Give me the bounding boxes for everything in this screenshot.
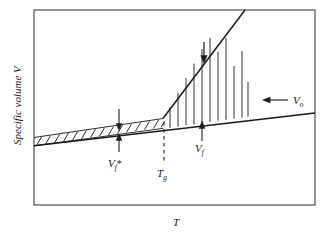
y-axis-label: Specific volume V (11, 65, 23, 145)
plot-frame (34, 10, 315, 205)
x-axis-label: T (173, 216, 180, 228)
figure-container: Specific volume V T Vf* Vf Vo Tg (0, 0, 335, 234)
free-volume-diagram: Specific volume V T Vf* Vf Vo Tg (0, 0, 335, 234)
